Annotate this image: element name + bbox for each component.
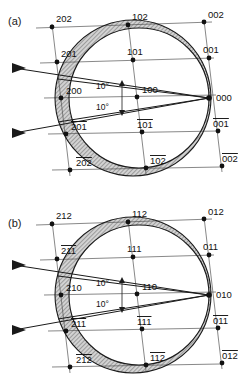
node-label-011bar: 011	[213, 315, 228, 326]
node-label-212bar: 212	[76, 354, 92, 365]
ewald-construction-figure: (a) 202 102 002 201 101 001 200 100 000 …	[0, 0, 248, 389]
node-label-012bar: 012	[222, 350, 238, 361]
angle-label-lower-b: 10°	[96, 299, 109, 309]
node-label-201bar: 201	[71, 121, 87, 132]
node-label-201: 201	[61, 48, 77, 59]
node-label-111: 111	[127, 243, 141, 254]
node-label-100: 100	[142, 84, 158, 95]
panel-a: (a) 202 102 002 201 101 001 200 100 000 …	[0, 0, 248, 195]
node-label-212: 212	[56, 210, 72, 221]
node-label-112bar: 112	[150, 352, 165, 363]
node-label-210: 210	[66, 282, 82, 293]
node-label-200: 200	[66, 85, 82, 96]
angle-label-upper-a: 10°	[96, 81, 109, 91]
node-label-111bar: 111	[137, 316, 151, 327]
node-label-001bar: 001	[213, 118, 229, 129]
node-label-110: 110	[142, 281, 157, 292]
node-label-010-origin: 010	[216, 289, 232, 300]
angle-label-lower-a: 10°	[96, 102, 109, 112]
node-label-202bar: 202	[76, 157, 92, 168]
node-label-101: 101	[127, 46, 143, 57]
angle-label-upper-b: 10°	[96, 278, 109, 288]
node-label-112: 112	[132, 208, 147, 219]
node-label-211bar: 211	[61, 245, 76, 256]
node-label-211bar-lower: 211	[71, 318, 86, 329]
node-label-101bar: 101	[137, 119, 153, 130]
node-label-000-origin: 000	[216, 92, 232, 103]
panel-b: (b) 212 112 012 211 111 011 210 110 010 …	[0, 195, 248, 389]
panel-tag-b: (b)	[8, 217, 21, 229]
node-label-102bar: 102	[150, 155, 166, 166]
node-label-102: 102	[132, 11, 148, 22]
node-label-012: 012	[208, 206, 224, 217]
panel-tag-a: (a)	[8, 15, 21, 27]
node-label-001: 001	[203, 44, 219, 55]
node-label-011: 011	[203, 241, 218, 252]
node-label-002bar: 002	[222, 153, 238, 164]
node-label-002: 002	[208, 9, 224, 20]
node-label-202: 202	[56, 13, 72, 24]
